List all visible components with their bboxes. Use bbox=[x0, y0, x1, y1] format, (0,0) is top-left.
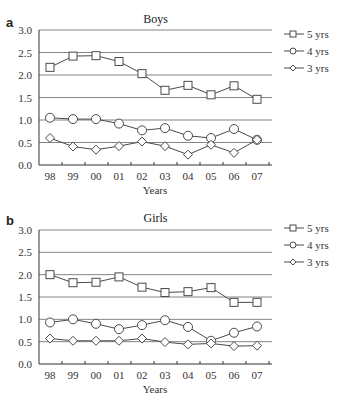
x-tick-label: 01 bbox=[114, 170, 125, 182]
square-marker-icon bbox=[161, 289, 169, 297]
circle-marker-icon bbox=[46, 318, 55, 327]
square-marker-icon bbox=[161, 86, 169, 94]
x-axis-title: Years bbox=[143, 383, 168, 395]
y-tick-label: 1.5 bbox=[18, 92, 32, 104]
x-tick-label: 00 bbox=[91, 170, 103, 182]
x-tick-label: 98 bbox=[45, 170, 57, 182]
y-tick-label: 0.0 bbox=[18, 159, 32, 171]
legend-label: 4 yrs bbox=[307, 45, 329, 57]
y-tick-label: 0.0 bbox=[18, 358, 32, 370]
square-marker-icon bbox=[115, 58, 123, 66]
circle-marker-icon bbox=[46, 113, 55, 122]
series-line bbox=[50, 339, 257, 347]
square-marker-icon bbox=[184, 81, 192, 89]
legend-label: 3 yrs bbox=[307, 62, 329, 74]
x-tick-label: 07 bbox=[252, 170, 264, 182]
square-marker-icon bbox=[253, 298, 261, 306]
diamond-marker-icon bbox=[46, 134, 55, 143]
y-tick-label: 2.5 bbox=[18, 246, 32, 258]
y-tick-label: 2.5 bbox=[18, 47, 32, 59]
legend-label: 3 yrs bbox=[307, 256, 329, 268]
x-tick-label: 04 bbox=[183, 369, 195, 381]
x-tick-label: 05 bbox=[206, 170, 218, 182]
x-tick-label: 07 bbox=[252, 369, 264, 381]
diamond-marker-icon bbox=[69, 142, 78, 151]
caption-fragment bbox=[0, 405, 342, 409]
diamond-marker-icon bbox=[161, 142, 170, 151]
circle-marker-icon bbox=[161, 316, 170, 325]
square-marker-icon bbox=[207, 91, 215, 99]
y-tick-label: 1.0 bbox=[18, 313, 32, 325]
circle-marker-icon bbox=[92, 319, 101, 328]
diamond-marker-icon bbox=[138, 137, 147, 146]
square-marker-icon bbox=[230, 298, 238, 306]
x-tick-label: 06 bbox=[229, 170, 241, 182]
diamond-marker-icon bbox=[184, 150, 193, 159]
circle-marker-icon bbox=[161, 124, 170, 133]
x-tick-label: 99 bbox=[68, 369, 80, 381]
diamond-marker-icon bbox=[92, 336, 101, 345]
circle-marker-icon bbox=[184, 131, 193, 140]
y-tick-label: 0.5 bbox=[18, 137, 32, 149]
diamond-marker-icon bbox=[115, 336, 124, 345]
diamond-marker-icon bbox=[69, 336, 78, 345]
y-tick-label: 0.5 bbox=[18, 336, 32, 348]
circle-marker-icon bbox=[115, 119, 124, 128]
x-tick-label: 03 bbox=[160, 369, 172, 381]
x-tick-label: 04 bbox=[183, 170, 195, 182]
x-tick-label: 03 bbox=[160, 170, 172, 182]
x-axis-title: Years bbox=[143, 184, 168, 196]
circle-marker-icon bbox=[230, 125, 239, 134]
x-tick-label: 06 bbox=[229, 369, 241, 381]
diamond-marker-icon bbox=[92, 145, 101, 154]
y-tick-label: 2.0 bbox=[18, 269, 32, 281]
y-tick-label: 3.0 bbox=[18, 224, 32, 236]
x-tick-label: 01 bbox=[114, 369, 125, 381]
y-tick-label: 1.0 bbox=[18, 114, 32, 126]
square-marker-icon bbox=[253, 95, 261, 103]
series-line bbox=[50, 319, 257, 340]
diamond-marker-icon bbox=[230, 148, 239, 157]
square-marker-icon bbox=[46, 271, 54, 279]
square-marker-icon bbox=[290, 31, 296, 37]
x-tick-label: 98 bbox=[45, 369, 57, 381]
x-tick-label: 00 bbox=[91, 369, 103, 381]
x-tick-label: 05 bbox=[206, 369, 218, 381]
diamond-marker-icon bbox=[290, 259, 296, 265]
x-tick-label: 02 bbox=[137, 170, 148, 182]
square-marker-icon bbox=[230, 82, 238, 90]
series-line bbox=[50, 275, 257, 303]
circle-marker-icon bbox=[69, 315, 78, 324]
diamond-marker-icon bbox=[161, 338, 170, 347]
x-tick-label: 99 bbox=[68, 170, 80, 182]
square-marker-icon bbox=[69, 52, 77, 60]
circle-marker-icon bbox=[92, 115, 101, 124]
diamond-marker-icon bbox=[230, 342, 239, 351]
line-chart-b: 0.00.51.01.52.02.53.09899000102030405060… bbox=[18, 222, 328, 395]
circle-marker-icon bbox=[69, 115, 78, 124]
circle-marker-icon bbox=[290, 242, 296, 248]
circle-marker-icon bbox=[138, 321, 147, 330]
y-tick-label: 2.0 bbox=[18, 69, 32, 81]
circle-marker-icon bbox=[290, 48, 296, 54]
charts-canvas: 0.00.51.01.52.02.53.09899000102030405060… bbox=[0, 0, 342, 409]
x-tick-label: 02 bbox=[137, 369, 148, 381]
circle-marker-icon bbox=[115, 325, 124, 334]
series-line bbox=[50, 138, 257, 155]
square-marker-icon bbox=[290, 225, 296, 231]
circle-marker-icon bbox=[184, 322, 193, 331]
square-marker-icon bbox=[92, 278, 100, 286]
legend: 5 yrs4 yrs3 yrs bbox=[284, 222, 329, 268]
legend-label: 5 yrs bbox=[307, 222, 329, 234]
legend-label: 4 yrs bbox=[307, 239, 329, 251]
square-marker-icon bbox=[207, 284, 215, 292]
square-marker-icon bbox=[92, 52, 100, 60]
y-tick-label: 1.5 bbox=[18, 291, 32, 303]
y-tick-label: 3.0 bbox=[18, 24, 32, 36]
square-marker-icon bbox=[115, 273, 123, 281]
circle-marker-icon bbox=[138, 126, 147, 135]
square-marker-icon bbox=[69, 279, 77, 287]
diamond-marker-icon bbox=[253, 341, 262, 350]
line-chart-a: 0.00.51.01.52.02.53.09899000102030405060… bbox=[18, 24, 328, 196]
legend: 5 yrs4 yrs3 yrs bbox=[284, 28, 329, 74]
